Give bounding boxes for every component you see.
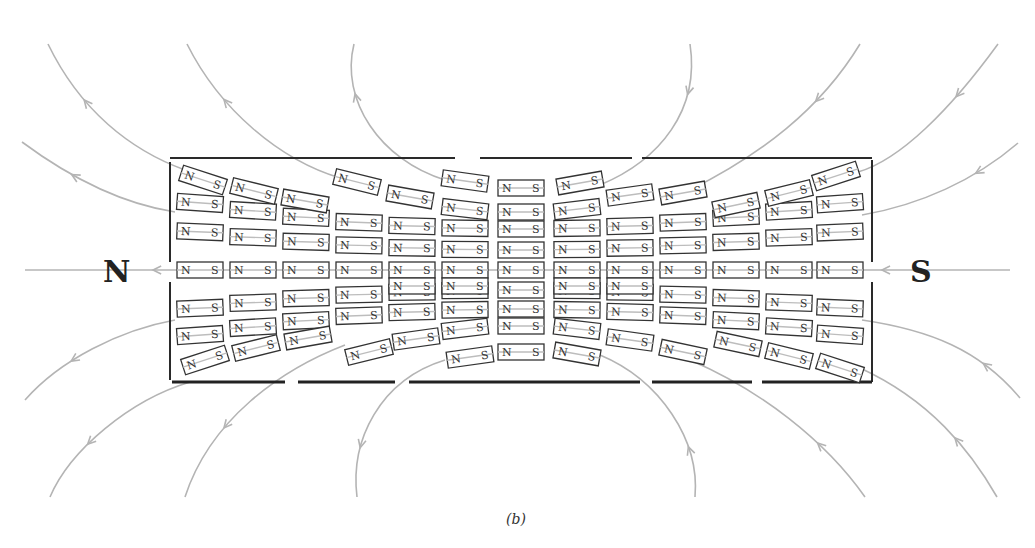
dipole-north-label: N: [340, 216, 350, 229]
dipole-south-label: S: [211, 301, 219, 314]
dipole-north-label: N: [664, 309, 674, 322]
dipole-north-label: N: [181, 225, 192, 238]
dipole-south-label: S: [370, 264, 378, 277]
field-line: [858, 44, 998, 172]
dipole-north-label: N: [664, 264, 674, 277]
dipole-magnet: NS: [389, 278, 435, 294]
dipole-north-label: N: [340, 239, 350, 252]
dipole-north-label: N: [340, 289, 350, 302]
dipole-south-label: S: [641, 280, 649, 293]
dipole-north-label: N: [287, 210, 298, 223]
dipole-north-label: N: [770, 232, 780, 245]
dipole-magnet: NS: [177, 262, 223, 278]
dipole-south-label: S: [264, 232, 272, 245]
dipole-south-label: S: [850, 330, 858, 343]
dipole-south-label: S: [317, 314, 325, 327]
dipole-north-label: N: [557, 321, 568, 335]
field-line: [351, 44, 445, 180]
dipole-magnet: NS: [283, 290, 329, 307]
dipole-magnet: NS: [336, 307, 383, 325]
dipole-south-label: S: [532, 223, 540, 236]
dipole-south-label: S: [211, 328, 219, 341]
dipole-north-label: N: [393, 264, 403, 277]
dipole-magnet: NS: [232, 335, 281, 362]
dipole-south-label: S: [532, 264, 540, 277]
dipole-magnet: NS: [442, 262, 488, 278]
dipole-south-label: S: [588, 243, 596, 256]
dipole-south-label: S: [747, 210, 755, 223]
dipole-south-label: S: [423, 264, 431, 277]
dipole-north-label: N: [502, 182, 512, 195]
dipole-magnet: NS: [713, 312, 760, 330]
dipole-south-label: S: [588, 280, 596, 293]
dipole-north-label: N: [502, 223, 512, 236]
dipole-magnet: NS: [498, 282, 544, 298]
dipole-magnet: NS: [713, 262, 759, 278]
dipole-magnet: NS: [816, 325, 863, 344]
dipole-north-label: N: [502, 346, 512, 359]
dipole-magnet: NS: [607, 262, 653, 278]
dipole-south-label: S: [211, 264, 219, 277]
dipole-south-label: S: [264, 264, 272, 277]
dipole-magnet: NS: [181, 345, 230, 374]
dipole-north-label: N: [181, 196, 192, 210]
dipole-south-label: S: [264, 205, 272, 218]
dipole-magnet: NS: [498, 318, 544, 334]
dipole-south-label: S: [532, 182, 540, 195]
dipole-south-label: S: [211, 226, 219, 239]
dipole-south-label: S: [475, 321, 484, 335]
dipole-north-label: N: [340, 310, 350, 323]
dipole-magnet: NS: [713, 233, 759, 250]
dipole-south-label: S: [264, 296, 272, 309]
dipole-north-label: N: [234, 264, 244, 277]
dipole-magnet: NS: [498, 301, 544, 317]
dipole-magnet: NS: [607, 303, 653, 320]
dipole-magnet: NS: [498, 262, 544, 278]
dipole-south-label: S: [747, 264, 755, 277]
dipole-magnet: NS: [766, 229, 813, 247]
dipole-south-label: S: [532, 320, 540, 333]
figure-caption: (b): [506, 511, 526, 527]
dipole-south-label: S: [317, 264, 325, 277]
dipole-south-label: S: [264, 320, 272, 333]
dipole-north-label: N: [234, 322, 245, 336]
dipole-magnet: NS: [179, 165, 228, 194]
dipole-south-label: S: [694, 310, 702, 323]
dipole-south-label: S: [423, 242, 431, 255]
dipole-north-label: N: [446, 280, 456, 293]
dipole-north-label: N: [558, 280, 568, 293]
dipole-magnet: NS: [441, 318, 489, 339]
field-line: [862, 143, 1018, 215]
dipole-magnet: NS: [441, 199, 489, 220]
dipole-south-label: S: [532, 346, 540, 359]
dipole-south-label: S: [747, 292, 755, 305]
dipole-north-label: N: [821, 327, 832, 341]
dipole-south-label: S: [800, 204, 808, 217]
dipole-magnet: NS: [554, 262, 600, 278]
dipole-magnet: NS: [498, 221, 544, 237]
dipole-magnet: NS: [553, 318, 601, 339]
dipole-magnet: NS: [556, 171, 604, 195]
dipole-north-label: N: [393, 220, 403, 233]
dipole-magnet: NS: [817, 223, 864, 241]
dipole-north-label: N: [446, 304, 456, 317]
dipole-magnet: NS: [607, 278, 653, 294]
dipole-north-label: N: [287, 292, 297, 305]
dipole-south-label: S: [588, 222, 596, 235]
dipole-south-label: S: [423, 280, 431, 293]
dipole-magnet: NS: [554, 302, 600, 319]
dipole-north-label: N: [287, 235, 297, 248]
dipole-north-label: N: [557, 204, 568, 218]
dipole-magnet: NS: [659, 181, 707, 205]
dipole-north-label: N: [234, 231, 244, 244]
dipole-north-label: N: [181, 264, 191, 277]
dipole-north-label: N: [445, 324, 456, 338]
dipole-north-label: N: [502, 303, 512, 316]
dipole-south-label: S: [532, 303, 540, 316]
dipole-south-label: S: [370, 309, 378, 322]
dipole-north-label: N: [664, 217, 674, 230]
dipole-magnet: NS: [345, 339, 394, 366]
dipole-magnet: NS: [498, 180, 544, 196]
dipole-south-label: S: [641, 264, 649, 277]
dipole-north-label: N: [558, 304, 568, 317]
